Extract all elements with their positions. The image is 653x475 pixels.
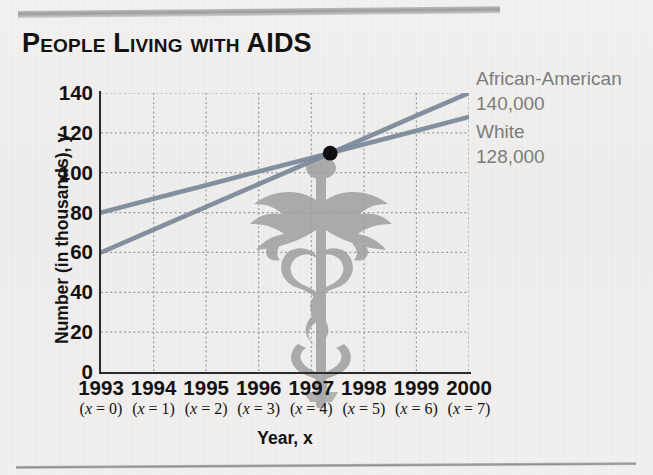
y-tick-label: 20 xyxy=(33,320,93,344)
x-tick-variable-label: (x = 7) xyxy=(434,399,504,419)
y-tick-label: 120 xyxy=(33,121,93,145)
legend-series-value: 140,000 xyxy=(476,91,651,117)
page-title: People Living with AIDS xyxy=(22,28,312,59)
y-tick-label: 40 xyxy=(33,280,93,304)
legend-series-value: 128,000 xyxy=(476,144,651,170)
y-axis-tick-labels: 140120100806040200 xyxy=(31,93,93,372)
y-tick-label: 80 xyxy=(33,201,93,225)
y-tick-label: 140 xyxy=(33,81,93,105)
x-axis-title: Year, x xyxy=(101,428,469,449)
chart-legend: African-American140,000White128,000 xyxy=(476,66,651,172)
legend-series-name: African-American xyxy=(476,66,651,91)
y-tick-label: 100 xyxy=(33,161,93,185)
x-tick-group: 2000(x = 7) xyxy=(434,376,504,419)
y-axis-line xyxy=(99,91,101,374)
chart-svg xyxy=(101,93,469,372)
series-line-white xyxy=(101,117,469,213)
x-tick-year-label: 2000 xyxy=(434,376,504,399)
legend-item: White128,000 xyxy=(476,119,651,170)
x-axis-line xyxy=(99,372,471,374)
intersection-point-marker xyxy=(323,146,338,161)
legend-series-name: White xyxy=(476,119,651,144)
plot-area xyxy=(101,93,469,372)
bottom-divider-rule xyxy=(16,462,636,469)
top-divider-rule xyxy=(18,6,500,18)
legend-item: African-American140,000 xyxy=(476,66,651,117)
x-axis-tick-labels: 1993(x = 0)1994(x = 1)1995(x = 2)1996(x … xyxy=(101,376,469,424)
y-tick-label: 60 xyxy=(33,240,93,264)
chart-page: People Living with AIDS Number (in thous… xyxy=(0,0,653,475)
